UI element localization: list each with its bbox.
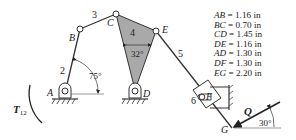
- dim-name: DE: [214, 39, 226, 49]
- label-d: D: [142, 88, 151, 99]
- label-link-2: 2: [60, 65, 65, 76]
- dim-name: DF: [214, 58, 226, 68]
- dim-name: CD: [214, 29, 227, 39]
- label-torque: T12: [13, 103, 27, 117]
- label-link-6: 6: [191, 95, 196, 106]
- joint-b: [77, 26, 83, 32]
- dim-value: = 1.30 in: [229, 58, 262, 68]
- dim-value: = 1.45 in: [229, 29, 262, 39]
- label-angle-30: 30°: [259, 118, 272, 128]
- label-a: A: [46, 87, 54, 98]
- joint-c: [113, 11, 119, 17]
- force-q-arrow: [234, 102, 280, 127]
- label-b: B: [69, 32, 75, 43]
- label-angle-75: 75°: [89, 71, 102, 81]
- slider-block-6: [193, 80, 233, 110]
- dim-value: = 1.30 in: [229, 48, 262, 58]
- label-c: C: [107, 17, 114, 28]
- label-link-3: 3: [92, 9, 97, 20]
- joint-f: [199, 94, 205, 100]
- dim-value: = 1.16 in: [229, 39, 262, 49]
- ground-pivot-a: [52, 83, 78, 104]
- dim-name: EG: [214, 68, 226, 78]
- dim-name: BC: [214, 20, 226, 30]
- label-link-4: 4: [130, 27, 135, 38]
- torque-subscript: 12: [20, 109, 28, 117]
- joint-e: [153, 28, 159, 34]
- dim-value: = 2.20 in: [229, 68, 262, 78]
- label-e: E: [161, 24, 168, 35]
- dim-value: = 1.16 in: [228, 10, 261, 20]
- dim-name: AB: [214, 10, 225, 20]
- dimension-table: AB = 1.16 in BC = 0.70 in CD = 1.45 in D…: [214, 11, 294, 78]
- dim-name: AD: [214, 48, 226, 58]
- dim-row-eg: EG = 2.20 in: [214, 69, 294, 79]
- label-g: G: [221, 124, 228, 135]
- dim-value: = 0.70 in: [228, 20, 261, 30]
- label-f: F: [205, 91, 213, 102]
- torque-arc: [29, 85, 42, 123]
- label-force-q: Q: [244, 105, 252, 117]
- label-angle-32: 32°: [131, 49, 144, 59]
- label-link-5: 5: [178, 48, 183, 59]
